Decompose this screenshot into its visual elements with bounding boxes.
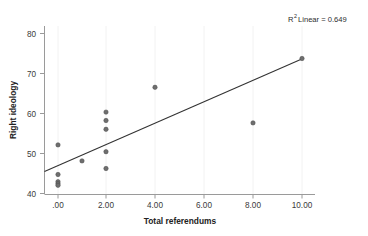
data-point xyxy=(104,127,108,131)
data-point xyxy=(80,159,84,163)
axis-lines xyxy=(45,26,316,195)
data-point xyxy=(56,143,60,147)
data-point xyxy=(56,172,60,176)
x-axis-ticks xyxy=(58,195,302,199)
r-squared-exponent: 2 xyxy=(294,13,297,19)
data-point xyxy=(300,56,304,60)
x-tick-label: 8.00 xyxy=(245,201,261,210)
x-tick-label: .00 xyxy=(52,201,64,210)
data-point xyxy=(104,118,108,122)
y-tick-label: 40 xyxy=(27,190,37,199)
plot-canvas: 80 70 60 50 40 .00 2.00 4.00 6.00 8.00 1… xyxy=(0,0,368,236)
data-point xyxy=(104,166,108,170)
data-point xyxy=(104,150,108,154)
data-point xyxy=(56,183,60,187)
data-point xyxy=(153,85,157,89)
r-squared-value: Linear = 0.649 xyxy=(298,15,347,24)
x-axis-title: Total referendums xyxy=(144,216,217,226)
scatter-plot-figure: 80 70 60 50 40 .00 2.00 4.00 6.00 8.00 1… xyxy=(0,0,368,236)
y-axis-ticks xyxy=(40,34,45,194)
data-point xyxy=(104,110,108,114)
y-axis-tick-labels: 80 70 60 50 40 xyxy=(27,30,37,199)
x-tick-label: 4.00 xyxy=(147,201,163,210)
data-point xyxy=(251,121,255,125)
x-tick-label: 2.00 xyxy=(98,201,114,210)
x-tick-label: 6.00 xyxy=(196,201,212,210)
y-tick-label: 60 xyxy=(27,110,37,119)
y-tick-label: 70 xyxy=(27,70,37,79)
data-points xyxy=(56,56,304,187)
y-tick-label: 50 xyxy=(27,150,37,159)
gridlines-vertical xyxy=(58,26,302,194)
r-squared-annotation: R 2 Linear = 0.649 xyxy=(288,13,347,24)
x-axis-tick-labels: .00 2.00 4.00 6.00 8.00 10.00 xyxy=(52,201,312,210)
x-tick-label: 10.00 xyxy=(292,201,313,210)
y-axis-title: Right ideology xyxy=(8,81,18,139)
y-tick-label: 80 xyxy=(27,30,37,39)
regression-line xyxy=(45,58,304,171)
